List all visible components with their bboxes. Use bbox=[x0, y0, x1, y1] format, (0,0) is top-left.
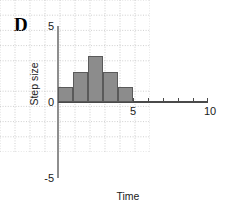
bar-2 bbox=[88, 56, 103, 102]
y-tick-label-minus5: -5 bbox=[28, 173, 54, 184]
bar-series bbox=[58, 26, 208, 102]
bar-0 bbox=[58, 87, 73, 102]
x-axis-title: Time bbox=[88, 190, 168, 202]
x-tick-label-5: 5 bbox=[121, 106, 145, 117]
bar-4 bbox=[118, 87, 133, 102]
y-axis-title: Step size bbox=[28, 44, 40, 124]
bar-1 bbox=[73, 72, 88, 102]
x-tick-label-10: 10 bbox=[198, 106, 222, 117]
y-tick-label-5: 5 bbox=[28, 21, 54, 32]
bar-3 bbox=[103, 72, 118, 102]
figure-panel-d: D bbox=[0, 0, 239, 208]
